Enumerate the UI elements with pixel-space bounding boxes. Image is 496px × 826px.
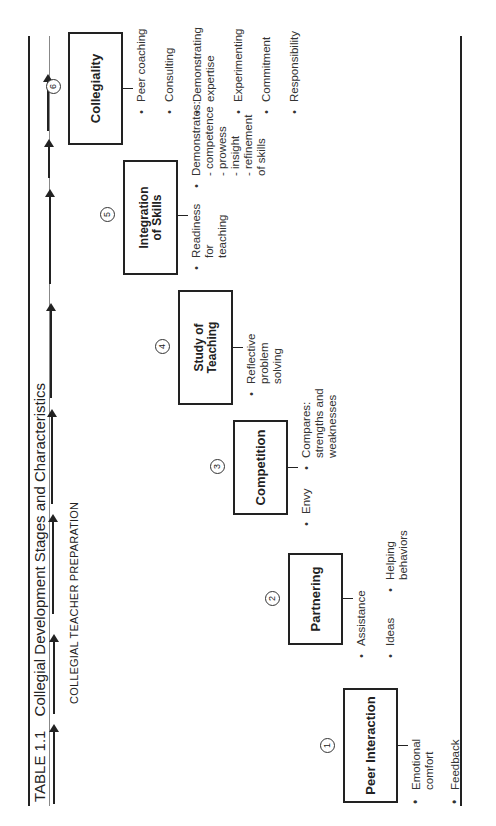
- rotated-table-page: TABLE 1.1 Collegial Development Stages a…: [0, 0, 496, 826]
- stage-label: Integration of Skills: [138, 187, 164, 249]
- characteristic-item: Emotional comfort: [410, 730, 436, 804]
- connector-line: [398, 745, 408, 746]
- progression-arrow-icon: [48, 141, 50, 178]
- stage-box-collegiality: Collegiality: [68, 32, 123, 145]
- characteristic-text: Reflective problem solving: [245, 334, 283, 385]
- bottom-rule: [460, 36, 462, 806]
- characteristic-item: •Readiness for teaching: [190, 202, 268, 270]
- stage-box-partnering: Partnering: [288, 553, 343, 645]
- characteristic-text: Readiness for teaching: [190, 204, 228, 258]
- stage-2-characteristics: •Assistance: [355, 518, 368, 658]
- characteristic-item: •Helping behaviors: [384, 520, 410, 592]
- characteristic-item: •Compares: strengths and weaknesses: [300, 388, 339, 470]
- sub-characteristic: - prowess: [216, 106, 229, 176]
- characteristic-text: Consulting: [163, 48, 175, 102]
- connector-line: [123, 88, 133, 89]
- characteristic-item: • Demonstrates: - competence - prowess -…: [190, 106, 268, 188]
- characteristic-item: •Ideas: [384, 606, 410, 658]
- stage-label: Collegiality: [89, 54, 103, 123]
- stage-1-characteristics: Emotional comfort Feedback: [410, 664, 475, 804]
- stage-number-5: 5: [100, 207, 115, 222]
- characteristic-text: Assistance: [355, 590, 367, 646]
- progression-arrow-icon: [53, 636, 55, 714]
- characteristic-item: •Envy: [300, 484, 339, 526]
- stage-box-peer-interaction: Peer Interaction: [343, 688, 398, 803]
- progression-arrow-icon: [49, 191, 51, 284]
- connector-line: [178, 215, 188, 216]
- characteristic-item: •Assistance: [355, 590, 368, 658]
- characteristic-text: Compares: strengths and weaknesses: [300, 388, 338, 458]
- characteristic-item: •Responsibility: [288, 14, 301, 114]
- table-title: TABLE 1.1 Collegial Development Stages a…: [31, 383, 48, 802]
- stage-3-characteristics: •Envy •Compares: strengths and weaknesse…: [300, 366, 339, 526]
- characteristic-item: •Reflective problem solving: [245, 316, 284, 396]
- connector-line: [288, 467, 298, 468]
- characteristic-item: •Peer coaching: [135, 14, 148, 114]
- stage-label: Study of Teaching: [193, 322, 219, 374]
- characteristic-item: •Experimenting: [232, 14, 245, 114]
- characteristic-text: Ideas: [384, 618, 396, 646]
- section-subtitle: COLLEGIAL TEACHER PREPARATION: [68, 502, 80, 704]
- stage-label: Peer Interaction: [364, 696, 378, 794]
- stage-number-2: 2: [265, 591, 280, 606]
- characteristic-text: Envy: [300, 488, 312, 514]
- stage-box-competition: Competition: [233, 420, 288, 515]
- characteristic-item: •Demonstrating expertise: [191, 14, 217, 114]
- stage-number-6: 6: [46, 79, 61, 94]
- stage-6-characteristics: •Peer coaching •Consulting •Demonstratin…: [135, 14, 316, 114]
- stage-label: Competition: [254, 430, 268, 506]
- stage-box-study-of-teaching: Study of Teaching: [178, 290, 233, 405]
- sub-characteristic: - refinement of skills: [242, 106, 268, 176]
- sub-characteristic: - insight: [229, 106, 242, 176]
- characteristic-item: •Consulting: [163, 14, 176, 114]
- connector-line: [343, 598, 353, 599]
- stage-number-3: 3: [210, 459, 225, 474]
- top-rule: [28, 36, 30, 806]
- connector-line: [233, 347, 243, 348]
- stage-label: Partnering: [309, 567, 323, 632]
- characteristic-text: Peer coaching: [135, 28, 147, 102]
- progression-arrow-icon: [53, 726, 55, 804]
- characteristic-text: Responsibility: [288, 31, 300, 102]
- table-title-text: Collegial Development Stages and Charact…: [31, 383, 48, 717]
- characteristic-text: Demonstrating expertise: [191, 27, 216, 102]
- sub-characteristic: - competence: [203, 106, 216, 176]
- table-number: TABLE 1.1: [31, 731, 48, 802]
- characteristic-text: Experimenting: [232, 28, 244, 102]
- characteristic-item: •Commitment: [260, 14, 273, 114]
- progression-arrow-icon: [50, 305, 52, 398]
- progression-arrow-icon: [51, 411, 53, 504]
- stage-number-1: 1: [320, 738, 335, 753]
- stage-number-4: 4: [155, 339, 170, 354]
- characteristic-text: Helping behaviors: [384, 530, 409, 580]
- characteristic-text: Commitment: [260, 37, 272, 102]
- stage-2-characteristics-row2: •Ideas •Helping behaviors: [384, 508, 410, 658]
- stage-box-integration-of-skills: Integration of Skills: [123, 160, 178, 275]
- progression-arrow-icon: [52, 516, 54, 614]
- stage-4-characteristics: •Reflective problem solving: [245, 316, 284, 396]
